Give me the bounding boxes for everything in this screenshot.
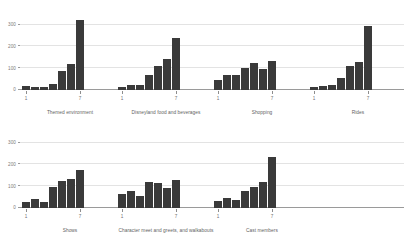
x-axis-tick-label: 7 <box>171 96 181 101</box>
panel-character-meet-and-greets: Character meet and greets, and walkabout… <box>118 118 214 236</box>
bar <box>232 200 240 208</box>
y-axis-tick-label: 200 <box>0 44 16 49</box>
panel-cast-members: Cast members 17 <box>214 118 310 236</box>
bar <box>250 63 258 90</box>
bar <box>40 202 48 208</box>
panel-title: Cast members <box>214 228 310 234</box>
x-axis-tick-label: 1 <box>117 96 127 101</box>
bar-group <box>118 18 214 90</box>
x-axis-tick-mark <box>26 209 27 212</box>
bar <box>154 183 162 208</box>
y-axis-tick-label: 0 <box>0 205 16 210</box>
y-axis-tick-mark <box>18 163 20 164</box>
bar <box>364 26 372 90</box>
bar <box>118 194 126 208</box>
bar <box>127 191 135 208</box>
bar <box>118 87 126 90</box>
bar-group <box>214 136 310 208</box>
x-axis-tick-mark <box>122 91 123 94</box>
bar <box>310 87 318 90</box>
bar <box>76 170 84 208</box>
y-axis-tick-mark <box>18 24 20 25</box>
bar <box>250 187 258 208</box>
bar <box>22 202 30 208</box>
bar <box>67 64 75 90</box>
bar <box>172 38 180 90</box>
y-axis-tick-label: 0 <box>0 87 16 92</box>
panel-shopping: Shopping 17 <box>214 0 310 118</box>
panel-rides: Rides 17 <box>310 0 406 118</box>
bar <box>319 86 327 90</box>
panel-title: Rides <box>310 110 406 116</box>
bar-group <box>214 18 310 90</box>
bar <box>172 180 180 208</box>
plot-area <box>310 18 406 90</box>
bar <box>22 86 30 90</box>
panel-title: Disneyland food and beverages <box>118 110 214 116</box>
y-axis-tick-label: 100 <box>0 66 16 71</box>
bar <box>232 75 240 90</box>
bar <box>163 188 171 208</box>
small-multiples-bar-chart-figure: 0100200300 Themed environment 17 Disneyl… <box>0 0 408 236</box>
panel-title: Shopping <box>214 110 310 116</box>
x-axis-tick-mark <box>122 209 123 212</box>
plot-area <box>214 136 310 208</box>
x-axis-tick-label: 7 <box>75 96 85 101</box>
x-axis-tick-label: 7 <box>171 214 181 219</box>
chart-row-top: 0100200300 Themed environment 17 Disneyl… <box>0 0 408 118</box>
bar <box>346 66 354 90</box>
bar <box>136 196 144 208</box>
bar <box>259 69 267 90</box>
bar <box>259 182 267 208</box>
bar <box>214 201 222 208</box>
bar <box>58 181 66 208</box>
bar <box>241 191 249 208</box>
bar <box>268 157 276 208</box>
bar <box>31 87 39 90</box>
bar-group <box>22 136 118 208</box>
plot-area <box>118 136 214 208</box>
bar <box>154 66 162 90</box>
x-axis-tick-mark <box>176 91 177 94</box>
x-axis-tick-label: 1 <box>21 96 31 101</box>
x-axis-tick-label: 7 <box>363 96 373 101</box>
x-axis-tick-mark <box>26 91 27 94</box>
y-axis-tick-mark <box>18 185 20 186</box>
x-axis-tick-label: 7 <box>75 214 85 219</box>
plot-area <box>22 18 118 90</box>
bar <box>145 182 153 208</box>
plot-area <box>22 136 118 208</box>
y-axis-tick-mark <box>18 142 20 143</box>
x-axis-tick-mark <box>176 209 177 212</box>
y-axis-tick-label: 300 <box>0 22 16 27</box>
y-axis-tick-mark <box>18 207 20 208</box>
bar <box>49 187 57 208</box>
bar <box>337 78 345 90</box>
bar <box>268 61 276 90</box>
x-axis-tick-label: 7 <box>267 96 277 101</box>
plot-area <box>214 18 310 90</box>
bar <box>223 198 231 208</box>
bar <box>241 68 249 90</box>
bar <box>76 20 84 90</box>
x-axis-tick-mark <box>218 209 219 212</box>
x-axis-tick-label: 1 <box>21 214 31 219</box>
bar <box>328 85 336 90</box>
x-axis-tick-mark <box>314 91 315 94</box>
panel-title: Character meet and greets, and walkabout… <box>118 228 214 234</box>
bar-group <box>22 18 118 90</box>
panel-themed-environment: Themed environment 17 <box>22 0 118 118</box>
x-axis-tick-mark <box>80 91 81 94</box>
bar <box>145 75 153 90</box>
x-axis-tick-mark <box>368 91 369 94</box>
y-axis-tick-mark <box>18 67 20 68</box>
bar <box>31 199 39 208</box>
bar <box>223 75 231 90</box>
bar <box>163 59 171 90</box>
x-axis-tick-label: 1 <box>117 214 127 219</box>
bar <box>40 87 48 90</box>
x-axis-tick-mark <box>218 91 219 94</box>
y-axis-tick-label: 300 <box>0 140 16 145</box>
panel-disneyland-food-and-beverages: Disneyland food and beverages 17 <box>118 0 214 118</box>
x-axis-tick-label: 1 <box>213 214 223 219</box>
